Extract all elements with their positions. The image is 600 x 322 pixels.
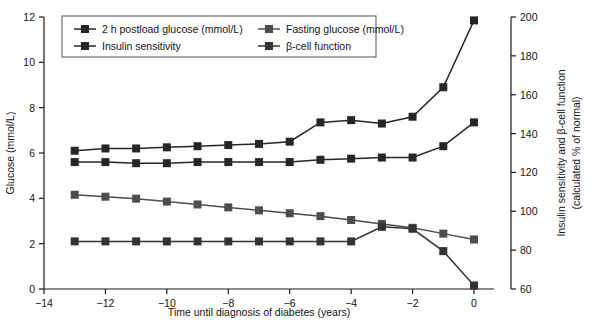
data-point-marker [470,235,478,243]
data-point-marker [224,203,232,211]
data-point-marker [101,158,109,166]
y-tick-label-left: 6 [29,147,35,159]
y-tick-label-right: 100 [520,205,538,217]
data-point-marker [163,237,171,245]
data-point-marker [316,156,324,164]
x-tick-label: 0 [471,297,477,309]
y-tick-label-right: 140 [520,128,538,140]
data-point-marker [132,237,140,245]
data-point-marker [470,118,478,126]
chart-container: −14−12−10−8−6−4−200246810126080100120140… [0,0,600,322]
legend-label: Insulin sensitivity [102,40,182,52]
data-point-marker [101,193,109,201]
data-point-marker [378,120,386,128]
y-tick-label-left: 2 [29,238,35,250]
data-point-marker [224,237,232,245]
legend-label: β-cell function [286,40,351,52]
data-point-marker [71,191,79,199]
y-tick-label-left: 4 [29,192,35,204]
data-point-marker [409,154,417,162]
x-axis-title: Time until diagnosis of diabetes (years) [168,306,350,318]
y-tick-label-left: 8 [29,102,35,114]
data-point-marker [255,158,263,166]
legend-marker [81,25,89,33]
data-point-marker [347,155,355,163]
y-axis-left-title: Glucose (mmol/L) [4,112,16,195]
data-point-marker [470,282,478,290]
y-tick-label-right: 120 [520,166,538,178]
data-point-marker [224,141,232,149]
data-point-marker [347,216,355,224]
legend-marker [265,25,273,33]
y-tick-label-right: 60 [520,283,532,295]
x-tick-label: −14 [35,297,53,309]
data-point-marker [224,158,232,166]
data-point-marker [163,159,171,167]
data-point-marker [286,138,294,146]
y-axis-left-ticks: 024681012 [23,11,44,295]
data-point-marker [286,209,294,217]
data-point-marker [71,147,79,155]
data-point-marker [378,154,386,162]
data-point-marker [163,198,171,206]
x-tick-label: −2 [407,297,419,309]
y-tick-label-left: 10 [23,56,35,68]
data-point-marker [101,237,109,245]
data-point-marker [132,195,140,203]
data-point-marker [194,237,202,245]
data-point-marker [71,237,79,245]
data-point-marker [132,159,140,167]
data-point-marker [470,16,478,24]
data-point-marker [286,158,294,166]
data-point-marker [194,158,202,166]
y-tick-label-right: 180 [520,50,538,62]
legend-label: Fasting glucose (mmol/L) [286,23,404,35]
y-tick-label-right: 160 [520,89,538,101]
data-point-marker [409,225,417,233]
data-point-marker [255,140,263,148]
data-point-marker [409,113,417,121]
data-point-marker [286,237,294,245]
data-point-marker [255,237,263,245]
legend: 2 h postload glucose (mmol/L)Fasting glu… [62,16,404,57]
data-point-marker [439,83,447,91]
x-tick-label: −12 [97,297,115,309]
data-point-marker [194,142,202,150]
data-point-marker [194,200,202,208]
y-tick-label-right: 200 [520,11,538,23]
data-point-marker [347,116,355,124]
data-point-marker [316,118,324,126]
y-tick-label-left: 12 [23,11,35,23]
data-point-marker [439,247,447,255]
legend-marker [81,42,89,50]
data-point-marker [316,237,324,245]
line-chart: −14−12−10−8−6−4−200246810126080100120140… [0,0,600,322]
series-3 [71,191,478,244]
data-point-marker [132,144,140,152]
data-point-marker [378,223,386,231]
data-point-marker [71,158,79,166]
data-point-marker [439,230,447,238]
legend-label: 2 h postload glucose (mmol/L) [102,23,243,35]
y-axis-right-title-line2: (calculated % of normal) [570,96,582,209]
data-point-marker [439,142,447,150]
series-line [75,227,474,286]
data-point-marker [347,237,355,245]
series-4 [71,223,478,290]
y-tick-label-right: 80 [520,244,532,256]
data-point-marker [255,206,263,214]
legend-marker [265,42,273,50]
y-axis-right-title-line1: Insulin sensitivity and β-cell function [555,69,567,236]
data-point-marker [316,212,324,220]
data-point-marker [101,144,109,152]
data-point-marker [163,143,171,151]
y-tick-label-left: 0 [29,283,35,295]
y-axis-right-ticks: 6080100120140160180200 [511,11,538,295]
